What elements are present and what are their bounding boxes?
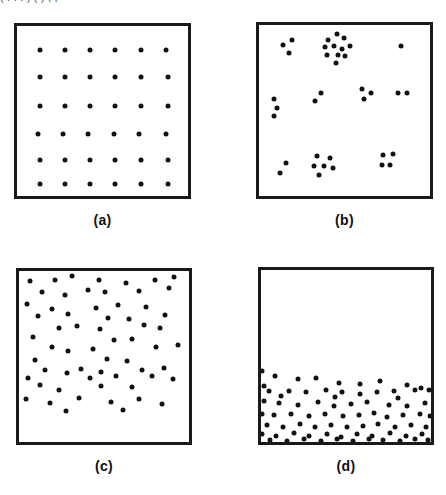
data-point (315, 153, 320, 158)
data-point (50, 307, 55, 312)
data-point (153, 277, 158, 282)
data-point (126, 316, 131, 321)
panel-a (14, 23, 191, 199)
data-point (283, 160, 288, 165)
data-point (63, 158, 68, 163)
data-point (388, 431, 393, 436)
panel-b-plot-area (259, 25, 430, 196)
data-point (398, 44, 403, 49)
data-point (39, 290, 44, 295)
data-point (38, 182, 43, 187)
data-point (279, 394, 284, 399)
data-point (43, 368, 48, 373)
data-point (325, 432, 330, 437)
data-point (56, 326, 61, 331)
data-point (36, 131, 41, 136)
data-point (381, 438, 386, 442)
data-point (38, 48, 43, 53)
data-point (66, 348, 71, 353)
data-point (313, 99, 318, 104)
data-point (357, 381, 362, 386)
data-point (116, 303, 121, 308)
data-point (170, 376, 175, 381)
data-point (161, 366, 166, 371)
data-point (322, 411, 327, 416)
data-point (74, 323, 79, 328)
data-point (136, 131, 141, 136)
data-point (405, 383, 410, 388)
data-point (343, 53, 348, 58)
data-point (333, 60, 338, 65)
data-point (138, 104, 143, 109)
data-point (360, 87, 365, 92)
data-point (384, 415, 389, 420)
data-point (318, 90, 323, 95)
data-point (392, 389, 397, 394)
data-point (66, 311, 71, 316)
data-point (88, 75, 93, 80)
data-point (266, 389, 271, 394)
data-point (327, 156, 332, 161)
data-point (261, 384, 266, 389)
data-point (113, 104, 118, 109)
data-point (38, 75, 43, 80)
data-point (163, 48, 168, 53)
data-point (63, 104, 68, 109)
data-point (261, 398, 266, 403)
data-point (86, 131, 91, 136)
data-point (165, 158, 170, 163)
data-point (328, 422, 333, 427)
data-point (24, 302, 29, 307)
data-point (267, 438, 272, 442)
data-point (158, 326, 163, 331)
data-point (88, 48, 93, 53)
panel-a-plot-area (17, 26, 188, 196)
data-point (69, 274, 74, 279)
data-point (337, 380, 342, 385)
data-point (26, 375, 31, 380)
panel-b-label: (b) (256, 212, 433, 228)
data-point (280, 42, 285, 47)
data-point (94, 305, 99, 310)
data-point (378, 378, 383, 383)
data-point (288, 412, 293, 417)
data-point (292, 431, 297, 436)
data-point (334, 437, 339, 442)
data-point (344, 424, 349, 429)
data-point (369, 90, 374, 95)
data-point (290, 37, 295, 42)
panel-a-border (14, 23, 191, 199)
data-point (356, 413, 361, 418)
data-point (341, 35, 346, 40)
panel-d-border (258, 267, 434, 445)
data-point (307, 433, 312, 438)
panel-d-label: (d) (258, 458, 434, 474)
data-point (130, 385, 135, 390)
cropped-caption-text: ( . . . ) ( ) , , (0, 0, 446, 5)
data-point (88, 104, 93, 109)
data-point (113, 48, 118, 53)
data-point (376, 421, 381, 426)
data-point (108, 399, 113, 404)
data-point (395, 396, 400, 401)
data-point (65, 370, 70, 375)
data-point (428, 414, 431, 419)
data-point (319, 439, 324, 442)
data-point (358, 391, 363, 396)
data-point (261, 432, 264, 437)
data-point (166, 286, 171, 291)
data-point (276, 401, 281, 406)
data-point (79, 367, 84, 372)
data-point (298, 421, 303, 426)
data-point (124, 280, 129, 285)
data-point (372, 410, 377, 415)
data-point (111, 131, 116, 136)
data-point (113, 182, 118, 187)
data-point (419, 432, 424, 437)
data-point (138, 75, 143, 80)
data-point (404, 90, 409, 95)
data-point (47, 400, 52, 405)
data-point (387, 163, 392, 168)
data-point (98, 384, 103, 389)
data-point (261, 411, 264, 416)
